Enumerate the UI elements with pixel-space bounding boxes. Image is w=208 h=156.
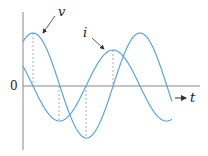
current-curve — [23, 50, 172, 121]
i-label-pointer — [92, 38, 104, 49]
waveform-diagram: v i 0 t — [0, 0, 208, 156]
i-label: i — [83, 25, 87, 40]
v-label-pointer — [43, 16, 55, 33]
v-label: v — [58, 4, 66, 19]
t-axis-label: t — [190, 90, 196, 105]
voltage-curve — [23, 33, 172, 138]
origin-label: 0 — [10, 79, 18, 93]
